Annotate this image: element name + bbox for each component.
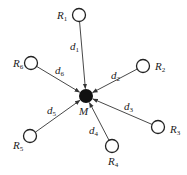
edges-group: d1d2d3d4d5d6 bbox=[35, 21, 152, 140]
node-label-r4: R4 bbox=[107, 155, 119, 169]
edge-label-d5: d5 bbox=[47, 104, 57, 118]
edge-label-d4: d4 bbox=[89, 124, 99, 138]
edge-d5-arrow bbox=[35, 100, 80, 132]
node-label-r1: R1 bbox=[56, 9, 68, 23]
node-label-r5: R5 bbox=[12, 139, 24, 153]
star-topology-diagram: d1d2d3d4d5d6 R1R2R3R4R5R6 M bbox=[0, 0, 187, 175]
edge-d3-arrow bbox=[93, 99, 152, 124]
node-r1-circle bbox=[73, 9, 86, 22]
node-r4-circle bbox=[106, 140, 119, 153]
center-label: M bbox=[78, 105, 89, 117]
node-r6-circle bbox=[25, 57, 38, 70]
edge-label-d3: d3 bbox=[124, 100, 134, 114]
edge-label-d1: d1 bbox=[70, 40, 80, 54]
center-node-group: M bbox=[78, 89, 93, 117]
center-node-m bbox=[79, 89, 93, 103]
node-r2-circle bbox=[137, 60, 150, 73]
node-label-r2: R2 bbox=[154, 60, 166, 74]
node-r3-circle bbox=[152, 121, 165, 134]
nodes-group: R1R2R3R4R5R6 bbox=[12, 9, 181, 170]
node-label-r6: R6 bbox=[12, 57, 24, 71]
edge-d1-arrow bbox=[80, 21, 86, 88]
edge-label-d6: d6 bbox=[55, 64, 65, 78]
diagram-canvas: d1d2d3d4d5d6 R1R2R3R4R5R6 M bbox=[0, 0, 187, 175]
edge-label-d2: d2 bbox=[111, 69, 121, 83]
node-r5-circle bbox=[24, 130, 37, 143]
node-label-r3: R3 bbox=[169, 123, 181, 137]
